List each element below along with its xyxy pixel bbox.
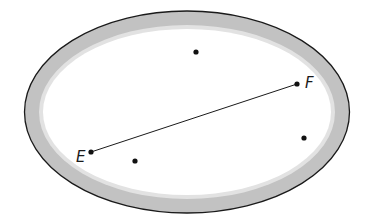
ellipse-diagram: F E <box>0 0 371 222</box>
point-top <box>193 49 198 54</box>
point-bottom-left <box>132 158 137 163</box>
point-right <box>301 135 306 140</box>
label-e: E <box>76 148 86 166</box>
ellipse-interior <box>43 29 331 195</box>
label-f: F <box>305 74 314 92</box>
point-f <box>294 81 299 86</box>
point-e <box>88 149 93 154</box>
